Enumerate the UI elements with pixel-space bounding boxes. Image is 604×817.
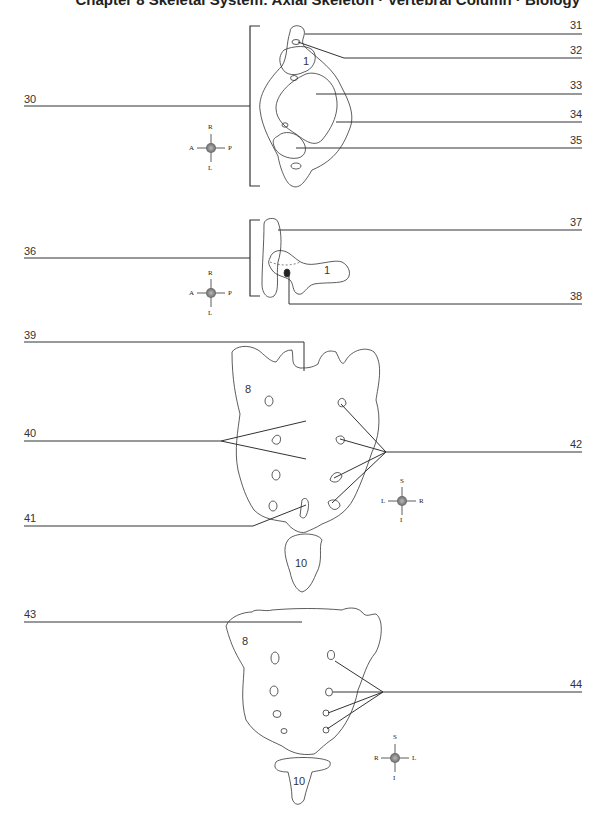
label-36: 36 (24, 246, 36, 257)
compass-4-bottom: I (393, 775, 395, 782)
vertebra-lateral-diagram (24, 218, 582, 304)
bone-number-8: 8 (245, 384, 251, 395)
compass-3-bottom: I (400, 517, 402, 524)
compass-1-bottom: L (208, 165, 212, 172)
label-42: 42 (570, 439, 582, 450)
compass-1-left: A (189, 145, 194, 152)
label-43: 43 (24, 609, 36, 620)
bone-number-1: 1 (324, 265, 330, 276)
sacrum-anterior-diagram (24, 342, 582, 592)
bone-number-10: 10 (295, 558, 307, 569)
compass-rose-4 (381, 744, 409, 772)
diagram-canvas (0, 0, 604, 817)
label-38: 38 (570, 291, 582, 302)
compass-4-top: S (393, 734, 397, 741)
label-30: 30 (24, 94, 36, 105)
compass-3-top: S (400, 478, 404, 485)
label-34: 34 (570, 109, 582, 120)
compass-rose-2 (197, 279, 225, 307)
vertebra-superior-diagram (24, 26, 582, 187)
label-32: 32 (570, 45, 582, 56)
compass-4-right: L (412, 755, 416, 762)
compass-rose-3 (388, 487, 416, 515)
compass-3-right: R (419, 498, 424, 505)
compass-1-right: P (228, 145, 232, 152)
label-44: 44 (570, 679, 582, 690)
label-41: 41 (24, 513, 36, 524)
compass-4-left: R (374, 755, 379, 762)
label-33: 33 (570, 80, 582, 91)
bone-number-10: 10 (293, 776, 305, 787)
label-37: 37 (570, 217, 582, 228)
label-35: 35 (570, 135, 582, 146)
label-40: 40 (24, 428, 36, 439)
label-39: 39 (24, 330, 36, 341)
compass-2-left: A (189, 290, 194, 297)
compass-rose-1 (197, 134, 225, 162)
label-31: 31 (570, 20, 582, 31)
bone-number-1: 1 (303, 56, 309, 67)
compass-2-right: P (228, 290, 232, 297)
compass-1-top: R (208, 124, 213, 131)
bone-number-8: 8 (242, 636, 248, 647)
compass-2-top: R (208, 270, 213, 277)
compass-2-bottom: L (208, 310, 212, 317)
compass-3-left: L (381, 498, 385, 505)
